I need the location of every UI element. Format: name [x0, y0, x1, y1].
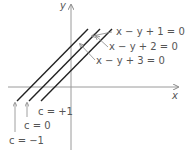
- leader-eq-2: [96, 36, 108, 47]
- c-label-plus1: c = +1: [38, 107, 73, 117]
- equation-label-2: x − y + 2 = 0: [109, 42, 178, 52]
- equation-label-3: x − y + 3 = 0: [96, 56, 165, 66]
- x-axis-label: x: [172, 91, 178, 101]
- c-label-0: c = 0: [24, 121, 51, 131]
- line-2: [29, 29, 100, 101]
- c-label-minus1: c = −1: [9, 136, 44, 146]
- equation-label-1: x − y + 1 = 0: [116, 27, 185, 37]
- leader-eq-3: [80, 44, 95, 60]
- y-axis-label: y: [60, 1, 66, 11]
